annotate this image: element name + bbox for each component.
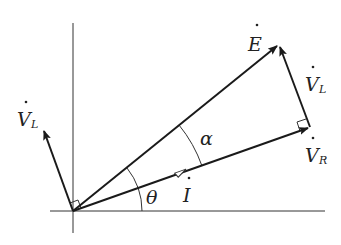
- label-V-L-left: V L: [17, 101, 38, 131]
- label-I: I: [182, 177, 191, 206]
- label-V-R: V R: [305, 137, 327, 167]
- svg-text:R: R: [318, 154, 327, 167]
- label-alpha: α: [200, 127, 213, 149]
- phasor-V-L-origin: [44, 131, 73, 211]
- label-V-L-right: V L: [305, 66, 326, 96]
- label-theta: θ: [146, 186, 158, 208]
- svg-text:L: L: [30, 118, 38, 131]
- svg-text:I: I: [182, 184, 191, 206]
- label-E: E: [247, 24, 262, 55]
- phasor-diagram: E V L V R V L I α θ: [0, 0, 341, 245]
- svg-text:E: E: [247, 33, 262, 55]
- phasor-E: [73, 46, 277, 211]
- svg-text:L: L: [318, 83, 326, 96]
- alpha-arc: [179, 125, 202, 166]
